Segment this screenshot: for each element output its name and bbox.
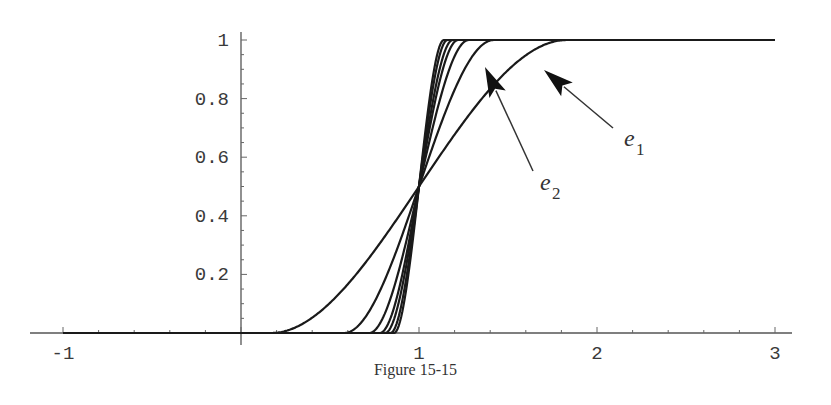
label-subscript: 1 — [636, 140, 645, 159]
y-tick-label: 1 — [218, 30, 229, 52]
y-tick-label: 0.8 — [195, 89, 229, 111]
arrow-shaft-e2 — [496, 91, 533, 171]
annotations: e1e2 — [485, 67, 645, 203]
curves — [63, 40, 775, 333]
curve-e7 — [63, 40, 775, 333]
y-tick-label: 0.4 — [195, 206, 229, 228]
arrowhead-icon — [544, 70, 573, 96]
figure-caption: Figure 15-15 — [0, 361, 831, 379]
arrowhead-icon — [485, 67, 506, 98]
label-subscript: 2 — [552, 184, 561, 203]
y-tick-label: 0.6 — [195, 147, 229, 169]
label-e2: e — [540, 169, 551, 195]
label-e1: e — [624, 125, 635, 151]
arrow-shaft-e1 — [564, 87, 613, 128]
y-tick-label: 0.2 — [195, 264, 229, 286]
chart: -11230.20.40.60.81 e1e2 — [0, 0, 831, 405]
